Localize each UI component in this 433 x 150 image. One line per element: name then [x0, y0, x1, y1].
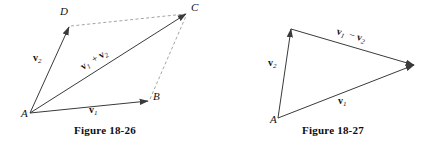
dashed-edge-BC	[150, 16, 186, 99]
label-v1-plus-v2: v1 + v2	[78, 46, 111, 73]
label-v2: v2	[268, 57, 277, 70]
vertex-label-c: C	[191, 1, 199, 13]
label-v1: v1	[338, 95, 347, 108]
figure-caption: Figure 18-26	[74, 124, 136, 136]
figure-caption: Figure 18-27	[302, 124, 364, 136]
vector-figures-container: ABCDv2v1v1 + v2Figure 18-26Av2v1v1 − v2F…	[0, 0, 433, 150]
figure-18-26: ABCDv2v1v1 + v2Figure 18-26	[20, 1, 199, 136]
vertex-label-b: B	[153, 90, 160, 102]
vertex-label-a: A	[20, 107, 28, 119]
figure-18-27: Av2v1v1 − v2Figure 18-27	[268, 25, 414, 136]
label-v2: v2	[33, 52, 42, 65]
vector-v1-diagonal	[278, 65, 414, 118]
vector-sum-AC	[30, 14, 186, 113]
vertex-label-a: A	[269, 113, 277, 125]
vector-v2-up	[278, 29, 291, 118]
vertex-label-d: D	[59, 5, 68, 17]
figures-svg-canvas: ABCDv2v1v1 + v2Figure 18-26Av2v1v1 − v2F…	[0, 0, 433, 150]
dashed-edge-DC	[71, 14, 185, 26]
